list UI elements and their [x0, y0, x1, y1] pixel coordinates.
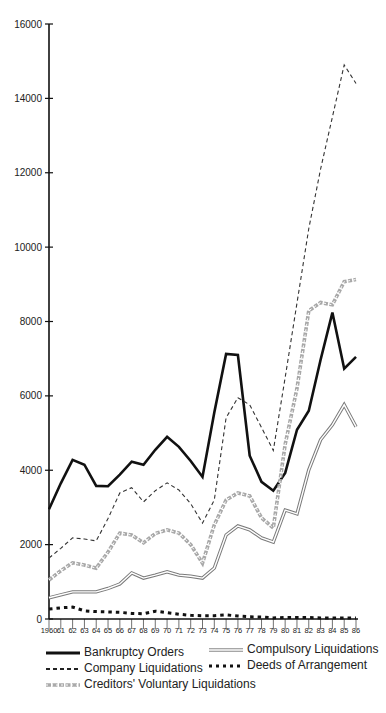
series-bankruptcy-orders	[49, 313, 356, 510]
solid-line-swatch-icon	[46, 648, 80, 656]
y-tick-label: 6000	[20, 390, 43, 401]
y-tick-label: 8000	[20, 316, 43, 327]
y-tick-label: 2000	[20, 539, 43, 550]
legend-item-creditors-voluntary-liquidations: Creditors' Voluntary Liquidations	[46, 677, 256, 691]
x-tick-label: 74	[210, 626, 218, 635]
dashed-line-swatch-icon	[46, 664, 80, 672]
x-tick-label: 70	[163, 626, 171, 635]
y-tick-label: 4000	[20, 465, 43, 476]
x-tick-label: 76	[234, 626, 242, 635]
x-tick-label: 85	[340, 626, 348, 635]
x-tick-label: 71	[175, 626, 183, 635]
line-chart: 0200040006000800010000120001400016000196…	[0, 0, 386, 713]
x-tick-label: 78	[257, 626, 265, 635]
y-tick-label: 16000	[14, 19, 42, 30]
x-tick-label: 79	[269, 626, 277, 635]
x-tick-label: 1960	[41, 626, 58, 635]
legend-item-bankruptcy-orders: Bankruptcy Orders	[46, 645, 184, 659]
x-tick-label: 63	[80, 626, 88, 635]
x-tick-label: 62	[68, 626, 76, 635]
chart-legend: Bankruptcy Orders Compulsory Liquidation…	[46, 645, 386, 713]
x-tick-label: 64	[92, 626, 100, 635]
legend-label: Bankruptcy Orders	[84, 645, 184, 659]
wavy-line-swatch-icon	[46, 680, 80, 688]
legend-label: Company Liquidations	[84, 661, 203, 675]
legend-item-company-liquidations: Company Liquidations	[46, 661, 203, 675]
x-tick-label: 73	[198, 626, 206, 635]
x-tick-label: 68	[139, 626, 147, 635]
x-tick-label: 72	[187, 626, 195, 635]
y-tick-label: 10000	[14, 242, 42, 253]
legend-label: Compulsory Liquidations	[247, 642, 378, 656]
x-tick-label: 83	[316, 626, 324, 635]
double-line-swatch-icon	[209, 645, 243, 653]
x-tick-label: 81	[293, 626, 301, 635]
chart-series	[49, 65, 356, 618]
x-tick-label: 69	[151, 626, 159, 635]
x-tick-label: 66	[116, 626, 124, 635]
series-creditors-voluntary-liquidations	[49, 280, 356, 581]
x-tick-label: 80	[281, 626, 289, 635]
y-tick-label: 0	[36, 614, 42, 625]
x-tick-label: 67	[127, 626, 135, 635]
dotted-line-swatch-icon	[209, 661, 243, 669]
y-tick-label: 14000	[14, 93, 42, 104]
x-tick-label: 84	[328, 626, 336, 635]
legend-label: Creditors' Voluntary Liquidations	[84, 677, 256, 691]
legend-item-deeds-of-arrangement: Deeds of Arrangement	[209, 658, 367, 672]
legend-item-compulsory-liquidations: Compulsory Liquidations	[209, 642, 378, 656]
x-tick-label: 86	[352, 626, 360, 635]
legend-label: Deeds of Arrangement	[247, 658, 367, 672]
x-tick-label: 75	[222, 626, 230, 635]
x-tick-label: 61	[57, 626, 65, 635]
x-tick-label: 65	[104, 626, 112, 635]
series-deeds-of-arrangement	[49, 607, 356, 618]
y-tick-label: 12000	[14, 167, 42, 178]
x-tick-label: 82	[305, 626, 313, 635]
x-tick-label: 77	[246, 626, 254, 635]
